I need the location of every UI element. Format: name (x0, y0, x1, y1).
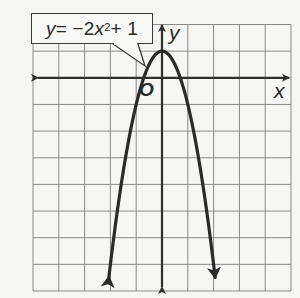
origin-label: O (139, 80, 154, 99)
equation-y: y (46, 18, 56, 40)
coordinate-plane (0, 0, 300, 298)
graph-figure: y = −2x2 + 1 y x O (0, 0, 300, 298)
equation-equals: = −2 (56, 18, 95, 40)
equation-tail: + 1 (111, 18, 139, 40)
equation-label-box: y = −2x2 + 1 (31, 13, 153, 44)
callout-pointer (113, 44, 145, 66)
callout-joint (114, 42, 137, 45)
x-axis-label: x (274, 80, 285, 101)
axes (38, 25, 289, 287)
equation-x: x (94, 18, 104, 40)
y-axis-label: y (169, 22, 180, 43)
equation-exponent: 2 (104, 21, 110, 33)
